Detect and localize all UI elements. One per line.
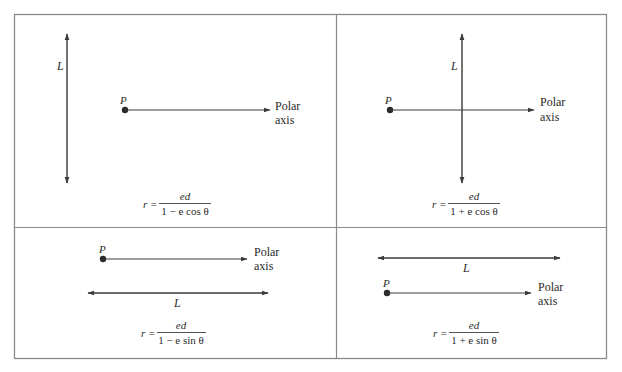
directrix-label: L <box>56 59 64 73</box>
panel-bottom-left: P Polar axis L r = ed 1 − e sin θ <box>88 243 279 346</box>
polar-axis-label-line2: axis <box>275 113 295 127</box>
formula-numerator: ed <box>180 190 191 202</box>
pole-label: P <box>119 94 127 106</box>
formula-numerator: ed <box>469 319 480 331</box>
formula-denominator: 1 − e cos θ <box>161 205 209 217</box>
formula-lhs: r = <box>141 327 155 339</box>
directrix-label: L <box>173 296 181 310</box>
figure-frame <box>15 15 607 359</box>
formula-denominator: 1 + e sin θ <box>451 334 497 346</box>
formula-lhs: r = <box>143 198 157 210</box>
polar-axis-label-line1: Polar <box>540 95 565 109</box>
polar-axis-label-line2: axis <box>538 294 558 308</box>
formula-denominator: 1 + e cos θ <box>450 205 498 217</box>
pole-label: P <box>98 243 106 255</box>
pole-label: P <box>384 94 392 106</box>
formula-denominator: 1 − e sin θ <box>158 334 204 346</box>
conic-polar-equations-figure: L P Polar axis r = ed 1 − e cos θ L P Po… <box>0 0 622 372</box>
formula-numerator: ed <box>176 319 187 331</box>
polar-axis-label-line1: Polar <box>275 99 300 113</box>
formula: r = ed 1 − e cos θ <box>143 190 211 217</box>
formula: r = ed 1 + e sin θ <box>433 319 499 346</box>
panel-bottom-right: L P Polar axis r = ed 1 + e sin θ <box>378 258 563 346</box>
polar-axis-label-line1: Polar <box>254 245 279 259</box>
formula: r = ed 1 − e sin θ <box>141 319 206 346</box>
directrix-label: L <box>462 261 470 275</box>
formula-numerator: ed <box>469 190 480 202</box>
pole-label: P <box>382 277 390 289</box>
polar-axis-label-line1: Polar <box>538 280 563 294</box>
formula-lhs: r = <box>432 198 446 210</box>
formula: r = ed 1 + e cos θ <box>432 190 500 217</box>
formula-lhs: r = <box>433 327 447 339</box>
polar-axis-label-line2: axis <box>254 259 274 273</box>
panel-top-right: L P Polar axis r = ed 1 + e cos θ <box>384 34 565 217</box>
panel-top-left: L P Polar axis r = ed 1 − e cos θ <box>56 34 300 217</box>
outer-border <box>15 15 607 359</box>
polar-axis-label-line2: axis <box>540 110 560 124</box>
directrix-label: L <box>450 59 458 73</box>
